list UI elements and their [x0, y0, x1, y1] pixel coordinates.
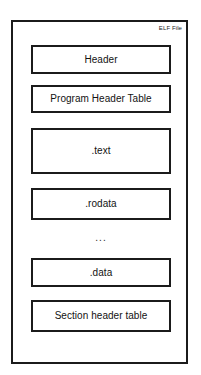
section-box-data: .data [31, 258, 171, 287]
section-label-text: .text [91, 145, 110, 157]
section-box-program-header-table: Program Header Table [31, 85, 171, 113]
section-label-data: .data [90, 267, 113, 279]
section-label-rodata: .rodata [85, 198, 116, 210]
section-box-rodata: .rodata [31, 188, 171, 220]
section-box-section-header-table: Section header table [31, 300, 171, 332]
section-label-header: Header [84, 54, 117, 66]
section-box-text: .text [31, 128, 171, 174]
elf-file-container: ELF File Header Program Header Table .te… [11, 20, 188, 364]
section-label-program-header-table: Program Header Table [50, 93, 151, 105]
section-label-section-header-table: Section header table [55, 310, 148, 322]
section-ellipsis-marker: ... [31, 230, 171, 246]
section-box-header: Header [31, 45, 171, 74]
ellipsis-label: ... [95, 232, 106, 244]
elf-file-label: ELF File [159, 24, 182, 32]
elf-file-diagram: ELF File Header Program Header Table .te… [0, 0, 201, 375]
